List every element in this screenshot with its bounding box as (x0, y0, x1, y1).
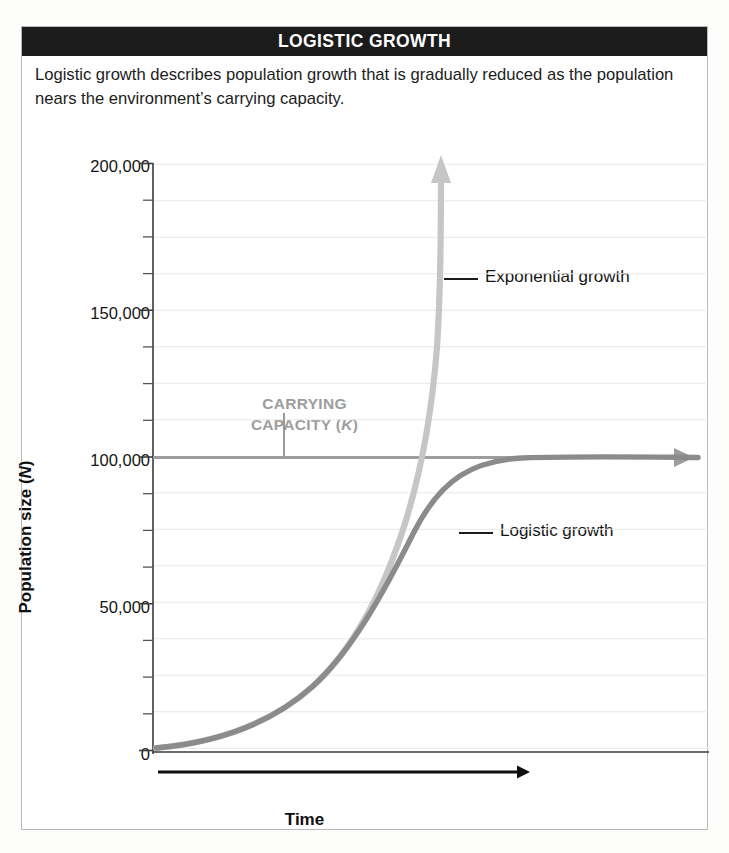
figure-panel: LOGISTIC GROWTH Logistic growth describe… (21, 26, 708, 830)
chart-plot (22, 27, 709, 829)
y-axis-major-ticks (139, 164, 153, 751)
figure-root: LOGISTIC GROWTH Logistic growth describe… (0, 0, 729, 853)
exponential-growth-curve (156, 155, 451, 748)
time-axis-arrow (158, 766, 530, 779)
chart-area: Population size (N) 200,000 150,000 100,… (22, 27, 707, 829)
